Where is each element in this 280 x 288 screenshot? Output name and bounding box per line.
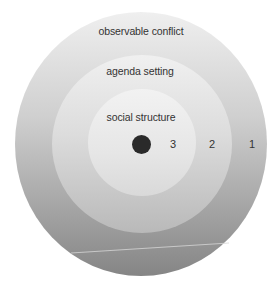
ring-label-inner: social structure (106, 112, 175, 123)
center-dot (132, 135, 151, 154)
ring-label-middle: agenda setting (106, 66, 174, 77)
ring-number-2: 2 (209, 139, 215, 150)
ring-label-outer: observable conflict (98, 26, 183, 37)
ring-number-3: 3 (170, 139, 176, 150)
power-levels-diagram: observable conflict agenda setting socia… (0, 0, 280, 288)
ring-number-1: 1 (249, 139, 255, 150)
